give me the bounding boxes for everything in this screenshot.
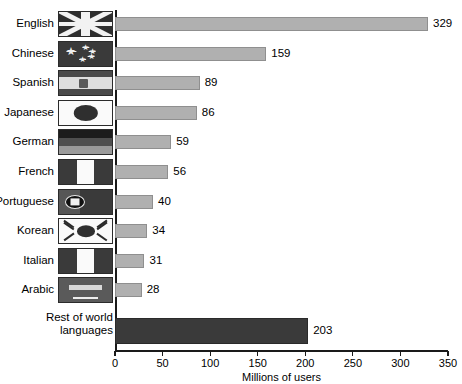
flag-south-korea-icon bbox=[58, 218, 113, 244]
bar-value-italian: 31 bbox=[149, 254, 162, 266]
bar-value-rest-of-world-languages: 203 bbox=[313, 324, 332, 336]
x-tick-0 bbox=[114, 351, 115, 356]
bar-japanese bbox=[115, 106, 197, 120]
x-tick-label-100: 100 bbox=[190, 357, 230, 369]
bar-value-spanish: 89 bbox=[205, 76, 218, 88]
bar-arabic bbox=[115, 283, 142, 297]
flag-germany-icon bbox=[58, 129, 113, 155]
x-axis-label: Millions of users bbox=[115, 371, 448, 383]
x-tick-label-150: 150 bbox=[238, 357, 278, 369]
bar-spanish bbox=[115, 76, 200, 90]
category-label-italian: Italian bbox=[23, 254, 54, 267]
bar-value-arabic: 28 bbox=[147, 283, 160, 295]
category-label-japanese: Japanese bbox=[4, 106, 54, 119]
x-tick-label-350: 350 bbox=[428, 357, 462, 369]
flag-france-icon bbox=[58, 159, 113, 185]
x-tick-300 bbox=[400, 351, 401, 356]
bar-value-korean: 34 bbox=[152, 224, 165, 236]
bar-portuguese bbox=[115, 195, 153, 209]
category-label-french: French bbox=[18, 165, 54, 178]
x-tick-350 bbox=[447, 351, 448, 356]
category-label-arabic: Arabic bbox=[21, 283, 54, 296]
bar-value-portuguese: 40 bbox=[158, 195, 171, 207]
x-tick-150 bbox=[257, 351, 258, 356]
flag-japan-icon bbox=[58, 100, 113, 126]
bar-value-japanese: 86 bbox=[202, 106, 215, 118]
bar-korean bbox=[115, 224, 147, 238]
x-axis-line bbox=[115, 350, 448, 352]
bar-english bbox=[115, 17, 428, 31]
flag-arabic-icon bbox=[58, 277, 113, 303]
bar-value-french: 56 bbox=[173, 165, 186, 177]
x-tick-250 bbox=[352, 351, 353, 356]
flag-spain-icon bbox=[58, 70, 113, 96]
category-label-chinese: Chinese bbox=[12, 47, 54, 60]
flag-italy-icon bbox=[58, 248, 113, 274]
x-tick-200 bbox=[305, 351, 306, 356]
bar-french bbox=[115, 165, 168, 179]
bar-rest-of-world-languages bbox=[115, 318, 308, 344]
x-tick-50 bbox=[162, 351, 163, 356]
x-tick-label-250: 250 bbox=[333, 357, 373, 369]
flag-portugal-icon bbox=[58, 189, 113, 215]
bar-italian bbox=[115, 254, 144, 268]
bar-value-english: 329 bbox=[433, 17, 452, 29]
bar-german bbox=[115, 135, 171, 149]
bar-value-chinese: 159 bbox=[271, 47, 290, 59]
flag-china-icon: ★★★★★ bbox=[58, 41, 113, 67]
bar-chinese bbox=[115, 47, 266, 61]
bar-value-german: 59 bbox=[176, 135, 189, 147]
category-label-english: English bbox=[16, 17, 54, 30]
flag-united-kingdom-icon bbox=[58, 11, 113, 37]
category-label-portuguese: Portuguese bbox=[0, 195, 54, 208]
x-tick-label-50: 50 bbox=[143, 357, 183, 369]
category-label-korean: Korean bbox=[17, 224, 54, 237]
category-label-spanish: Spanish bbox=[12, 76, 54, 89]
category-label-rest-of-world-languages: Rest of worldlanguages bbox=[46, 311, 113, 336]
x-tick-label-0: 0 bbox=[95, 357, 135, 369]
x-tick-label-200: 200 bbox=[285, 357, 325, 369]
x-tick-100 bbox=[210, 351, 211, 356]
category-label-german: German bbox=[12, 135, 54, 148]
y-axis-line bbox=[115, 10, 117, 351]
x-tick-label-300: 300 bbox=[380, 357, 420, 369]
